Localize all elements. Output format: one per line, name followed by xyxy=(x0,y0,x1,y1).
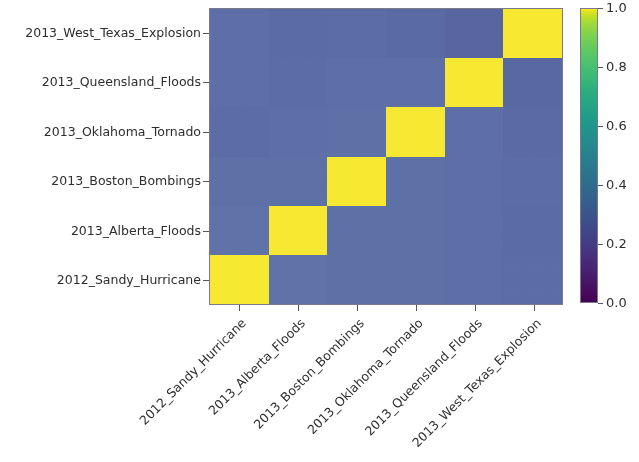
heatmap-cell xyxy=(503,255,562,304)
heatmap-cell xyxy=(269,157,328,206)
x-tick-mark xyxy=(534,305,535,311)
heatmap-cell xyxy=(503,58,562,107)
heatmap-cell xyxy=(503,206,562,255)
y-tick-label: 2013_West_Texas_Explosion xyxy=(0,26,201,40)
heatmap-cell xyxy=(327,9,386,58)
colorbar-tick-label: 0.0 xyxy=(606,296,627,309)
heatmap-plot-area xyxy=(209,8,563,305)
heatmap-cell xyxy=(445,9,504,58)
y-tick-mark xyxy=(203,231,209,232)
heatmap-cell xyxy=(503,157,562,206)
heatmap-cell xyxy=(445,255,504,304)
heatmap-cell xyxy=(210,107,269,156)
heatmap-figure: 2013_West_Texas_Explosion2013_Queensland… xyxy=(0,0,639,462)
heatmap-cell xyxy=(327,255,386,304)
colorbar-tick-label: 0.6 xyxy=(606,119,627,132)
x-tick-mark xyxy=(416,305,417,311)
y-tick-label: 2013_Queensland_Floods xyxy=(0,75,201,89)
x-tick-label: 2012_Sandy_Hurricane xyxy=(26,316,248,462)
y-tick-mark xyxy=(203,33,209,34)
heatmap-cell xyxy=(386,255,445,304)
colorbar-tick-label: 1.0 xyxy=(606,1,627,14)
x-tick-mark xyxy=(475,305,476,311)
heatmap-cell-grid xyxy=(210,9,562,304)
colorbar-tick-mark xyxy=(598,303,603,304)
heatmap-cell xyxy=(386,107,445,156)
heatmap-cell xyxy=(445,157,504,206)
y-tick-mark xyxy=(203,181,209,182)
y-tick-mark xyxy=(203,280,209,281)
heatmap-cell xyxy=(210,157,269,206)
heatmap-cell xyxy=(503,107,562,156)
colorbar-tick-label: 0.8 xyxy=(606,60,627,73)
colorbar-tick-label: 0.4 xyxy=(606,178,627,191)
heatmap-cell xyxy=(210,58,269,107)
colorbar-tick-mark xyxy=(598,185,603,186)
heatmap-cell xyxy=(445,206,504,255)
y-tick-mark xyxy=(203,132,209,133)
heatmap-cell xyxy=(269,9,328,58)
heatmap-cell xyxy=(386,157,445,206)
heatmap-cell xyxy=(445,107,504,156)
colorbar-tick-label: 0.2 xyxy=(606,237,627,250)
heatmap-cell xyxy=(210,206,269,255)
colorbar-tick-mark xyxy=(598,8,603,9)
heatmap-cell xyxy=(269,58,328,107)
heatmap-cell xyxy=(386,206,445,255)
heatmap-cell xyxy=(386,9,445,58)
x-tick-mark xyxy=(298,305,299,311)
colorbar-tick-mark xyxy=(598,244,603,245)
heatmap-cell xyxy=(327,58,386,107)
heatmap-cell xyxy=(269,107,328,156)
heatmap-cell xyxy=(503,9,562,58)
heatmap-cell xyxy=(269,255,328,304)
y-tick-mark xyxy=(203,82,209,83)
heatmap-cell xyxy=(210,9,269,58)
x-tick-mark xyxy=(357,305,358,311)
y-tick-label: 2013_Alberta_Floods xyxy=(0,224,201,238)
colorbar-tick-mark xyxy=(598,126,603,127)
y-tick-label: 2012_Sandy_Hurricane xyxy=(0,273,201,287)
heatmap-cell xyxy=(327,157,386,206)
heatmap-cell xyxy=(445,58,504,107)
heatmap-cell xyxy=(210,255,269,304)
colorbar-tick-mark xyxy=(598,67,603,68)
heatmap-cell xyxy=(327,107,386,156)
y-tick-label: 2013_Oklahoma_Tornado xyxy=(0,125,201,139)
heatmap-cell xyxy=(269,206,328,255)
colorbar xyxy=(580,8,598,303)
x-tick-mark xyxy=(239,305,240,311)
heatmap-cell xyxy=(327,206,386,255)
heatmap-cell xyxy=(386,58,445,107)
y-tick-label: 2013_Boston_Bombings xyxy=(0,174,201,188)
